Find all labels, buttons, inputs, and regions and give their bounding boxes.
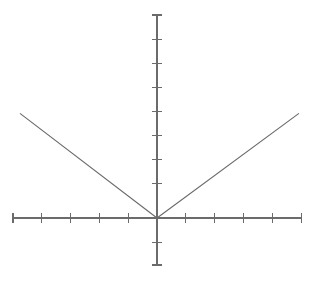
plot-background — [0, 0, 319, 289]
absolute-value-plot-figure — [0, 0, 319, 289]
plot-canvas — [0, 0, 319, 289]
